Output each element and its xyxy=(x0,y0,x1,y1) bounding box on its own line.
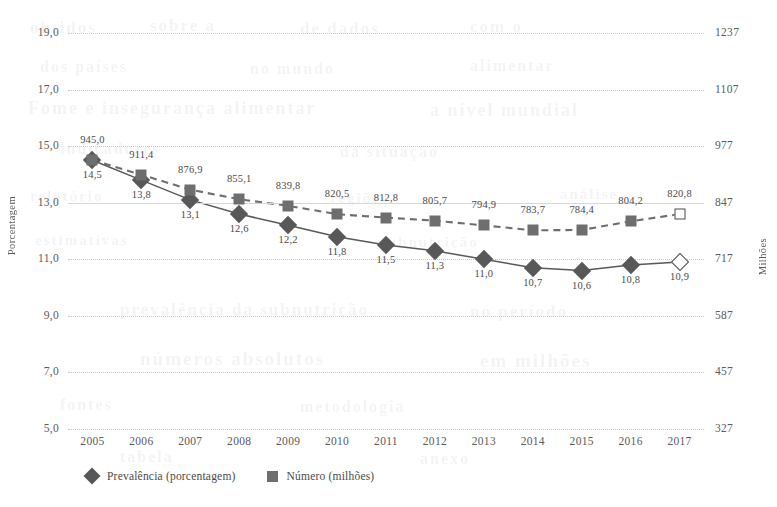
diamond-icon xyxy=(84,468,101,485)
x-axis-tick: 2010 xyxy=(325,435,349,447)
left-axis-title: Porcentagem xyxy=(6,196,17,255)
gridline xyxy=(68,33,704,34)
data-point-label: 11,0 xyxy=(474,268,493,279)
data-point-square[interactable] xyxy=(87,155,98,166)
x-axis-tick: 2011 xyxy=(374,435,398,447)
x-axis-tick: 2014 xyxy=(521,435,545,447)
chart-canvas: Porcentagem Milhões 5,07,09,011,013,015,… xyxy=(0,0,777,507)
data-point-square[interactable] xyxy=(381,212,392,223)
data-point-square[interactable] xyxy=(283,200,294,211)
data-point-square[interactable] xyxy=(185,184,196,195)
legend-label-prevalencia: Prevalência (porcentagem) xyxy=(107,470,236,482)
data-point-label: 855,1 xyxy=(227,173,252,184)
series-lines xyxy=(68,33,704,429)
gridline xyxy=(68,316,704,317)
data-point-label: 10,9 xyxy=(670,271,689,282)
data-point-square[interactable] xyxy=(625,216,636,227)
x-axis-tick: 2015 xyxy=(570,435,594,447)
x-axis-tick: 2006 xyxy=(129,435,153,447)
data-point-square[interactable] xyxy=(576,224,587,235)
data-point-square[interactable] xyxy=(234,194,245,205)
data-point-square[interactable] xyxy=(332,209,343,220)
data-point-label: 783,7 xyxy=(520,204,545,215)
right-axis-tick: 457 xyxy=(715,365,733,377)
data-point-label: 804,2 xyxy=(618,195,643,206)
data-point-square[interactable] xyxy=(478,220,489,231)
x-axis-tick: 2017 xyxy=(667,435,691,447)
gridline xyxy=(68,429,704,430)
plot-area: 5,07,09,011,013,015,017,019,032745758771… xyxy=(68,33,704,429)
data-point-label: 13,8 xyxy=(132,189,151,200)
x-axis-tick: 2016 xyxy=(619,435,643,447)
data-point-label: 794,9 xyxy=(472,199,497,210)
data-point-square[interactable] xyxy=(674,209,685,220)
left-axis-tick: 19,0 xyxy=(38,26,59,38)
square-icon xyxy=(267,471,278,482)
data-point-label: 12,6 xyxy=(230,223,249,234)
data-point-label: 812,8 xyxy=(374,192,399,203)
data-point-label: 10,6 xyxy=(572,280,591,291)
left-axis-tick: 11,0 xyxy=(38,252,59,264)
data-point-label: 13,1 xyxy=(181,209,200,220)
data-point-square[interactable] xyxy=(136,169,147,180)
right-axis-tick: 587 xyxy=(715,309,733,321)
chart-legend: Prevalência (porcentagem) Número (milhõe… xyxy=(86,470,374,482)
data-point-label: 11,8 xyxy=(328,246,347,257)
gridline xyxy=(68,203,704,204)
legend-label-numero: Número (milhões) xyxy=(287,470,375,482)
data-point-label: 820,8 xyxy=(667,188,692,199)
legend-item-numero[interactable]: Número (milhões) xyxy=(267,470,375,482)
data-point-label: 14,5 xyxy=(83,169,102,180)
data-point-square[interactable] xyxy=(429,215,440,226)
x-axis-tick: 2007 xyxy=(178,435,202,447)
data-point-label: 10,7 xyxy=(523,277,542,288)
right-axis-tick: 327 xyxy=(715,422,733,434)
data-point-label: 805,7 xyxy=(423,195,448,206)
right-axis-tick: 717 xyxy=(715,252,733,264)
gridline xyxy=(68,146,704,147)
left-axis-tick: 7,0 xyxy=(44,365,59,377)
right-axis-tick: 1107 xyxy=(715,83,739,95)
x-axis-tick: 2012 xyxy=(423,435,447,447)
data-point-label: 10,8 xyxy=(621,274,640,285)
data-point-label: 876,9 xyxy=(178,164,203,175)
data-point-label: 784,4 xyxy=(569,204,594,215)
x-axis-tick: 2008 xyxy=(227,435,251,447)
right-axis-tick: 1237 xyxy=(715,26,739,38)
left-axis-tick: 17,0 xyxy=(38,83,59,95)
right-axis-tick: 847 xyxy=(715,196,733,208)
left-axis-tick: 15,0 xyxy=(38,139,59,151)
data-point-label: 911,4 xyxy=(129,149,153,160)
x-axis-tick: 2013 xyxy=(472,435,496,447)
left-axis-tick: 9,0 xyxy=(44,309,59,321)
data-point-label: 820,5 xyxy=(325,188,350,199)
x-axis-tick: 2005 xyxy=(80,435,104,447)
right-axis-tick: 977 xyxy=(715,139,733,151)
right-axis-title: Milhões xyxy=(757,238,768,275)
gridline xyxy=(68,90,704,91)
data-point-square[interactable] xyxy=(527,225,538,236)
data-point-label: 11,5 xyxy=(377,254,396,265)
data-point-label: 945,0 xyxy=(80,134,105,145)
data-point-label: 839,8 xyxy=(276,180,301,191)
left-axis-tick: 5,0 xyxy=(44,422,59,434)
data-point-label: 11,3 xyxy=(426,260,445,271)
data-point-label: 12,2 xyxy=(279,234,298,245)
x-axis-tick: 2009 xyxy=(276,435,300,447)
gridline xyxy=(68,372,704,373)
legend-item-prevalencia[interactable]: Prevalência (porcentagem) xyxy=(86,470,236,482)
left-axis-tick: 13,0 xyxy=(38,196,59,208)
